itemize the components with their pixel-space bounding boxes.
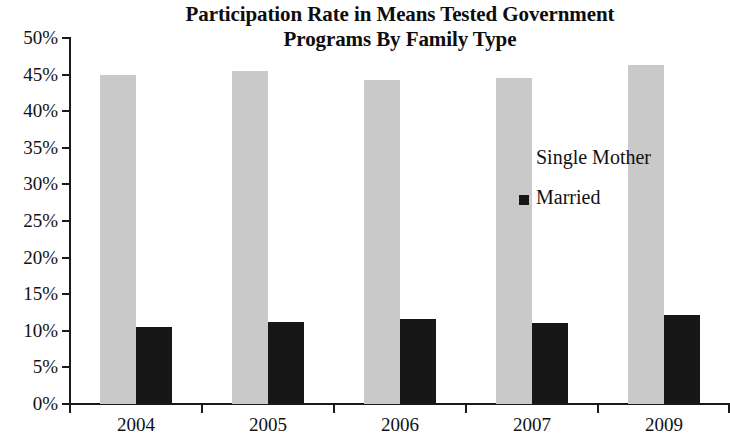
- x-axis-tick: [201, 404, 203, 413]
- legend-swatch-single-mother-icon: [519, 155, 529, 165]
- bar-2005-married: [268, 322, 304, 404]
- bar-chart: Participation Rate in Means Tested Gover…: [0, 0, 730, 446]
- bar-2007-single-mother: [496, 78, 532, 404]
- x-axis-tick: [333, 404, 335, 413]
- x-axis-tick: [69, 404, 71, 413]
- bar-2009-married: [664, 315, 700, 404]
- x-axis-tick-label-2005: 2005: [208, 414, 328, 436]
- legend-item-married: Married: [519, 186, 719, 226]
- x-axis-tick-label-2006: 2006: [340, 414, 460, 436]
- bar-2006-single-mother: [364, 80, 400, 404]
- legend-swatch-married-icon: [519, 195, 529, 205]
- bar-2004-single-mother: [100, 75, 136, 404]
- x-axis-tick-label-2004: 2004: [76, 414, 196, 436]
- bar-2004-married: [136, 327, 172, 404]
- legend-label-single-mother: Single Mother: [536, 146, 651, 168]
- legend-item-single-mother: Single Mother: [519, 146, 719, 186]
- legend-label-married: Married: [536, 186, 600, 208]
- chart-legend: Single Mother Married: [519, 146, 719, 226]
- x-axis-tick: [465, 404, 467, 413]
- x-axis-tick-label-2007: 2007: [472, 414, 592, 436]
- x-axis-tick: [597, 404, 599, 413]
- x-axis-tick-label-2009: 2009: [604, 414, 724, 436]
- bar-2007-married: [532, 323, 568, 404]
- bar-2009-single-mother: [628, 65, 664, 404]
- bar-2005-single-mother: [232, 71, 268, 404]
- bar-2006-married: [400, 319, 436, 404]
